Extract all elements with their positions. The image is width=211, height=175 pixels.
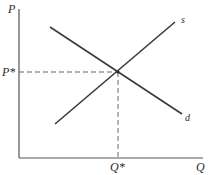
equilibrium-price-label: P* [2,66,15,78]
equilibrium-point [116,70,119,73]
y-axis-label: P [8,3,15,15]
supply-curve-label: s [181,14,185,26]
supply-demand-diagram [0,0,211,175]
supply-curve [55,22,175,124]
demand-curve-label: d [185,112,190,124]
demand-curve [50,27,182,114]
equilibrium-quantity-label: Q* [110,161,125,173]
x-axis-label: Q [196,161,205,173]
